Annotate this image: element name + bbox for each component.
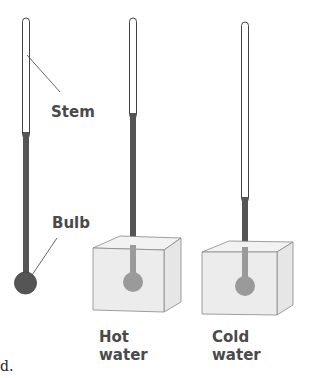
cold-water-label-line2: water	[212, 346, 261, 364]
hot-water-label-line2: water	[99, 346, 148, 364]
cold-water-setup	[202, 22, 293, 315]
stem-label: Stem	[51, 103, 95, 121]
hot-water-label-line1: Hot	[99, 328, 129, 346]
bulb-pointer-line	[30, 238, 57, 278]
stem-pointer-line	[27, 55, 60, 92]
hot-water-setup	[93, 18, 181, 312]
thermometer-reference	[15, 18, 61, 294]
caption-fragment: d.	[0, 358, 13, 374]
cold-water-label-line1: Cold	[212, 328, 249, 346]
bulb-label: Bulb	[52, 214, 90, 232]
diagram-canvas	[0, 0, 310, 378]
